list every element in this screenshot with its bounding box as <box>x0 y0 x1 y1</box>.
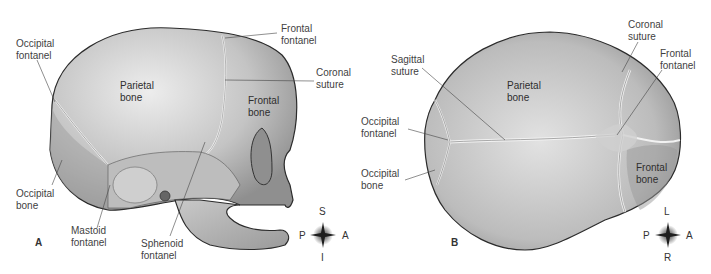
panel-a-lateral-view: Occipital fontanel Frontal fontanel Coro… <box>0 0 360 274</box>
label-coronal-suture-b: Coronal suture <box>628 19 663 43</box>
compass-right: R <box>664 252 671 263</box>
label-parietal-bone-a: Parietal bone <box>120 80 154 104</box>
label-occipital-bone-b: Occipital bone <box>361 168 399 192</box>
label-occipital-fontanel-a: Occipital fontanel <box>16 38 54 62</box>
label-coronal-suture-a: Coronal suture <box>316 67 351 91</box>
compass-posterior-b: P <box>643 230 650 241</box>
compass-left: L <box>664 206 670 217</box>
panel-letter-b: B <box>451 237 458 248</box>
panel-b-superior-view: Coronal suture Sagittal suture Frontal f… <box>355 0 711 274</box>
compass-star-a <box>310 222 336 248</box>
label-frontal-bone-b: Frontal bone <box>636 162 667 186</box>
panel-letter-a: A <box>35 237 42 248</box>
compass-superior: S <box>319 206 326 217</box>
label-occipital-fontanel-b: Occipital fontanel <box>361 116 399 140</box>
compass-posterior: P <box>299 230 306 241</box>
label-sagittal-suture-b: Sagittal suture <box>391 54 424 78</box>
label-mastoid-fontanel-a: Mastoid fontanel <box>71 225 107 249</box>
label-occipital-bone-a: Occipital bone <box>16 188 54 212</box>
label-frontal-bone-a: Frontal bone <box>248 95 279 119</box>
label-sphenoid-fontanel-a: Sphenoid fontanel <box>141 238 183 262</box>
compass-anterior-b: A <box>686 230 693 241</box>
compass-anterior: A <box>342 230 349 241</box>
label-frontal-fontanel-a: Frontal fontanel <box>281 23 317 47</box>
label-parietal-bone-b: Parietal bone <box>507 80 541 104</box>
compass-inferior: I <box>321 252 324 263</box>
compass-star-b <box>655 222 681 248</box>
label-frontal-fontanel-b: Frontal fontanel <box>660 48 696 72</box>
